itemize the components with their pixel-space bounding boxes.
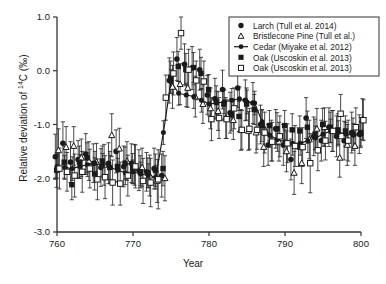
marker-open-square: [308, 161, 313, 166]
marker-filled-square: [350, 131, 355, 136]
marker-filled-square: [107, 165, 112, 170]
marker-open-square: [224, 116, 229, 121]
marker-filled-square: [92, 171, 97, 176]
x-axis-label: Year: [0, 258, 386, 269]
line-circle-icon: [239, 44, 244, 49]
marker-open-triangle: [337, 155, 343, 161]
marker-filled-square: [358, 130, 363, 135]
marker-filled-square: [236, 114, 241, 119]
marker-line-circle: [70, 166, 75, 171]
legend-label: Cedar (Miyake et al. 2012): [253, 42, 352, 52]
marker-filled-square: [214, 99, 219, 104]
marker-filled-square: [274, 126, 279, 131]
marker-filled-circle: [220, 87, 226, 93]
marker-open-square: [330, 128, 335, 133]
marker-open-square: [156, 177, 161, 182]
x-tick-label: 770: [125, 238, 141, 249]
marker-open-square: [247, 126, 252, 131]
y-tick-label: -1.0: [34, 119, 50, 130]
marker-filled-square: [320, 122, 325, 127]
marker-line-circle: [184, 92, 189, 97]
filled-circle-icon: [238, 23, 243, 28]
marker-open-square: [262, 130, 267, 135]
marker-filled-square: [176, 64, 181, 69]
marker-filled-circle: [303, 115, 309, 121]
legend-item[interactable]: [238, 23, 243, 28]
marker-open-square: [270, 139, 275, 144]
marker-open-square: [194, 78, 199, 83]
marker-filled-square: [69, 182, 74, 187]
marker-open-square: [163, 95, 168, 100]
y-tick-label: 0.0: [37, 65, 50, 76]
marker-open-square: [72, 173, 77, 178]
marker-open-triangle: [291, 170, 297, 176]
marker-filled-square: [305, 124, 310, 129]
marker-filled-square: [100, 158, 105, 163]
marker-filled-square: [252, 107, 257, 112]
marker-filled-square: [84, 155, 89, 160]
y-tick-label: -3.0: [34, 226, 50, 237]
marker-filled-square: [77, 159, 82, 164]
marker-filled-square: [267, 123, 272, 128]
y-axis-label: Relative deviation of 14C (‰): [17, 48, 29, 188]
marker-open-square: [80, 169, 85, 174]
marker-filled-circle: [68, 159, 74, 165]
marker-open-triangle: [299, 160, 305, 166]
marker-filled-square: [160, 166, 165, 171]
marker-open-square: [338, 111, 343, 116]
marker-filled-square: [145, 170, 150, 175]
marker-open-triangle: [71, 143, 77, 149]
marker-open-square: [300, 144, 305, 149]
marker-line-circle: [229, 98, 234, 103]
marker-open-square: [216, 115, 221, 120]
marker-filled-square: [290, 127, 295, 132]
marker-filled-square: [312, 131, 317, 136]
marker-filled-square: [62, 159, 67, 164]
legend-label: Oak (Uscoskin et al. 2013): [253, 63, 352, 73]
marker-open-square: [140, 178, 145, 183]
marker-open-square: [239, 127, 244, 132]
marker-open-square: [186, 67, 191, 72]
marker-open-square: [148, 180, 153, 185]
marker-open-square: [315, 148, 320, 153]
marker-open-square: [201, 79, 206, 84]
marker-open-square: [254, 127, 259, 132]
marker-filled-square: [153, 167, 158, 172]
marker-filled-circle: [288, 157, 294, 163]
marker-filled-circle: [174, 56, 180, 62]
x-tick-label: 800: [353, 238, 369, 249]
chart-canvas: 1.00.0-1.0-2.0-3.0760770780790800Larch (…: [0, 0, 386, 284]
x-tick-label: 760: [49, 238, 65, 249]
figure-14c-deviation: 1.00.0-1.0-2.0-3.0760770780790800Larch (…: [0, 0, 386, 284]
marker-open-square: [346, 138, 351, 143]
open-square-icon: [238, 65, 243, 70]
marker-filled-circle: [205, 92, 211, 98]
marker-line-circle: [176, 91, 181, 96]
marker-filled-square: [122, 161, 127, 166]
marker-filled-circle: [53, 154, 59, 160]
marker-open-square: [361, 118, 366, 123]
marker-filled-square: [343, 128, 348, 133]
marker-open-square: [209, 116, 214, 121]
legend-item[interactable]: [238, 55, 243, 60]
marker-open-square: [125, 173, 130, 178]
y-tick-label: -2.0: [34, 173, 50, 184]
marker-open-square: [95, 177, 100, 182]
marker-filled-circle: [235, 85, 241, 91]
marker-line-circle: [199, 98, 204, 103]
filled-square-icon: [238, 55, 243, 60]
marker-open-square: [118, 181, 123, 186]
marker-open-square: [353, 124, 358, 129]
marker-open-square: [133, 164, 138, 169]
legend-item[interactable]: [238, 65, 243, 70]
marker-open-triangle: [283, 148, 289, 154]
marker-open-square: [110, 180, 115, 185]
x-tick-label: 780: [201, 238, 217, 249]
marker-filled-square: [244, 101, 249, 106]
marker-open-square: [277, 134, 282, 139]
marker-line-circle: [207, 102, 212, 107]
marker-line-circle: [93, 161, 98, 166]
x-tick-label: 790: [277, 238, 293, 249]
marker-open-triangle: [109, 132, 115, 138]
marker-open-square: [171, 71, 176, 76]
